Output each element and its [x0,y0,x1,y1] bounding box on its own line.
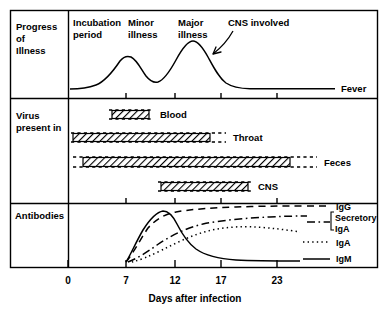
x-tick-label-17: 17 [215,275,227,286]
legend-label-igm: IgM [336,254,352,264]
row-label-virus-line-2: present in [16,122,62,133]
antibody-curve-secretory-iga [128,216,307,262]
virus-bar-label-cns: CNS [258,181,278,192]
virus-bar-blood: Blood [109,109,187,120]
virus-bar-cns: CNS [158,181,278,192]
panel-progress-ticks [126,93,277,99]
virus-bar-feces: Feces [73,157,351,168]
phase-label-minor-illness-line-1: Minor [128,17,154,28]
panel-antibodies: Antibodies IgG Secretory IgA IgA IgM [15,202,377,264]
legend-label-igg: IgG [336,202,351,212]
antibody-curve-igm [126,211,300,262]
virus-bar-label-feces: Feces [324,157,351,168]
row-label-progress-line-1: Progress [16,21,57,32]
row-label-progress-line-2: of [16,33,26,44]
x-axis: 0 7 12 17 23 Days after infection [65,260,283,304]
row-label-antibodies: Antibodies [15,210,64,221]
virus-bar-label-throat: Throat [233,132,263,143]
x-tick-label-12: 12 [169,275,181,286]
legend-bracket-secretory-iga [331,212,334,230]
phase-label-cns-involved: CNS involved [228,17,289,28]
x-tick-label-7: 7 [123,275,129,286]
antibody-legend: IgG Secretory IgA IgA IgM [303,202,377,264]
legend-label-iga: IgA [336,238,351,248]
x-tick-label-0: 0 [65,275,71,286]
legend-label-secretory-iga: IgA [335,224,350,234]
x-tick-label-23: 23 [271,275,283,286]
virus-bar-throat: Throat [71,132,263,143]
cns-involved-arrow-icon [213,31,233,54]
legend-label-secretory: Secretory [335,213,377,223]
fever-curve-label: Fever [341,83,367,94]
phase-label-minor-illness-line-2: illness [128,29,158,40]
phase-label-major-illness-line-2: illness [178,29,208,40]
phase-label-incubation-line-2: period [73,29,102,40]
panel-virus-present-in: Virus present in Blood Throat Feces [16,109,351,204]
fever-curve [70,41,335,89]
phase-label-major-illness-line-1: Major [178,17,204,28]
row-label-progress-line-3: Illness [16,45,46,56]
x-axis-title: Days after infection [149,293,242,304]
virus-bar-label-blood: Blood [160,109,187,120]
panel-virus-ticks [126,198,277,204]
phase-label-incubation-line-1: Incubation [73,17,121,28]
illness-progress-figure: Progress of Illness Incubation period Mi… [0,0,391,319]
row-label-virus-line-1: Virus [16,110,40,121]
